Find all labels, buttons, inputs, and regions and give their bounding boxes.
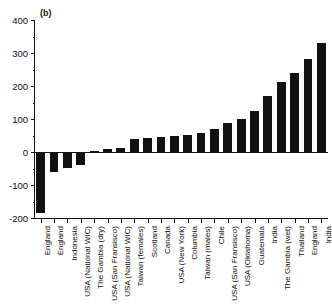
- x-tick-mark: [268, 219, 269, 223]
- x-tick-label: USA (New York): [178, 226, 186, 283]
- bar: [50, 152, 59, 172]
- x-tick-mark: [281, 219, 282, 223]
- x-tick-mark: [241, 219, 242, 223]
- bar: [183, 135, 192, 152]
- x-tick-mark: [148, 219, 149, 223]
- x-tick-mark: [161, 219, 162, 223]
- x-tick-label: India: [325, 226, 332, 243]
- x-tick-label: England: [57, 226, 65, 255]
- bar: [63, 152, 72, 168]
- bar: [197, 133, 206, 152]
- y-tick-label: 0: [23, 147, 28, 158]
- x-tick-label: Guatemala: [258, 226, 266, 265]
- bar: [90, 151, 99, 152]
- x-tick-mark: [67, 219, 68, 223]
- x-tick-label: USA (National WIC): [124, 226, 132, 297]
- x-axis-line: [34, 218, 328, 219]
- x-tick-mark: [121, 219, 122, 223]
- x-tick-label: Chile: [218, 226, 226, 244]
- x-tick-label: Indonesia: [71, 226, 79, 261]
- x-tick-mark: [188, 219, 189, 223]
- x-tick-mark: [41, 219, 42, 223]
- bar: [103, 149, 112, 152]
- x-tick-mark: [134, 219, 135, 223]
- x-tick-mark: [214, 219, 215, 223]
- bar: [116, 148, 125, 152]
- x-tick-label: USA (San Fransisco): [111, 226, 119, 301]
- bar: [130, 139, 139, 152]
- x-tick-label: USA (San Fransisco): [231, 226, 239, 301]
- x-tick-mark: [295, 219, 296, 223]
- x-tick-label: Thailand: [298, 226, 306, 257]
- bar: [36, 152, 45, 213]
- y-tick-label: 100: [12, 114, 28, 125]
- x-tick-label: USA (National WIC): [84, 226, 92, 297]
- bar: [237, 119, 246, 152]
- y-tick-label: 400: [12, 15, 28, 26]
- x-tick-mark: [81, 219, 82, 223]
- bar: [317, 43, 326, 152]
- bar: [223, 123, 232, 152]
- y-tick-label: -100: [9, 180, 28, 191]
- x-tick-label: Columbia: [191, 226, 199, 260]
- bar: [263, 96, 272, 152]
- chart-figure: (b) -200-1000100200300400 EnglandEngland…: [0, 0, 332, 307]
- bar: [76, 152, 85, 165]
- x-tick-mark: [321, 219, 322, 223]
- y-tick-label: -200: [9, 213, 28, 224]
- x-tick-label: The Gambia (dry): [97, 226, 105, 289]
- bar: [210, 129, 219, 152]
- bar: [277, 82, 286, 152]
- x-tick-mark: [94, 219, 95, 223]
- x-tick-mark: [174, 219, 175, 223]
- x-tick-label: The Gambia (wet): [284, 226, 292, 290]
- bar: [143, 138, 152, 152]
- panel-label: (b): [40, 8, 52, 18]
- x-tick-label: Canada: [164, 226, 172, 254]
- x-tick-label: England: [311, 226, 319, 255]
- bar: [250, 111, 259, 152]
- x-tick-mark: [201, 219, 202, 223]
- x-tick-mark: [228, 219, 229, 223]
- x-tick-label: England: [44, 226, 52, 255]
- bar: [290, 73, 299, 152]
- x-tick-label: India: [271, 226, 279, 243]
- x-tick-label: Scotland: [151, 226, 159, 257]
- x-tick-label: USA (Oklahoma): [244, 226, 252, 286]
- bar: [170, 136, 179, 152]
- y-tick-label: 200: [12, 81, 28, 92]
- y-tick-label: 300: [12, 48, 28, 59]
- x-tick-mark: [308, 219, 309, 223]
- x-tick-label: Taiwan (females): [137, 226, 145, 286]
- bar: [304, 59, 313, 152]
- x-tick-label: Taiwan (males): [204, 226, 212, 280]
- y-axis-ticks: -200-1000100200300400: [0, 0, 35, 307]
- x-tick-mark: [255, 219, 256, 223]
- x-tick-mark: [54, 219, 55, 223]
- x-tick-mark: [108, 219, 109, 223]
- bar: [157, 137, 166, 152]
